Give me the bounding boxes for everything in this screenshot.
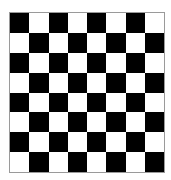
board-square-r3-c1[interactable] xyxy=(29,73,48,93)
board-square-r2-c3[interactable] xyxy=(68,53,87,73)
board-square-r6-c2[interactable] xyxy=(49,132,68,152)
checkerboard xyxy=(10,13,164,172)
board-square-r4-c0[interactable] xyxy=(10,93,29,113)
board-square-r5-c6[interactable] xyxy=(126,112,145,132)
board-square-r7-c7[interactable] xyxy=(145,152,164,172)
board-square-r0-c0[interactable] xyxy=(10,13,29,33)
board-square-r1-c3[interactable] xyxy=(68,33,87,53)
board-square-r2-c6[interactable] xyxy=(126,53,145,73)
board-square-r3-c3[interactable] xyxy=(68,73,87,93)
board-square-r4-c4[interactable] xyxy=(87,93,106,113)
board-square-r1-c0[interactable] xyxy=(10,33,29,53)
board-square-r0-c4[interactable] xyxy=(87,13,106,33)
board-square-r3-c0[interactable] xyxy=(10,73,29,93)
board-square-r3-c5[interactable] xyxy=(106,73,125,93)
board-square-r5-c5[interactable] xyxy=(106,112,125,132)
board-square-r4-c7[interactable] xyxy=(145,93,164,113)
board-square-r0-c7[interactable] xyxy=(145,13,164,33)
board-square-r2-c2[interactable] xyxy=(49,53,68,73)
board-square-r0-c3[interactable] xyxy=(68,13,87,33)
board-square-r6-c7[interactable] xyxy=(145,132,164,152)
board-square-r5-c2[interactable] xyxy=(49,112,68,132)
board-square-r5-c4[interactable] xyxy=(87,112,106,132)
board-square-r1-c4[interactable] xyxy=(87,33,106,53)
board-square-r6-c6[interactable] xyxy=(126,132,145,152)
board-square-r1-c7[interactable] xyxy=(145,33,164,53)
board-square-r6-c0[interactable] xyxy=(10,132,29,152)
board-square-r1-c6[interactable] xyxy=(126,33,145,53)
board-square-r7-c2[interactable] xyxy=(49,152,68,172)
board-square-r6-c1[interactable] xyxy=(29,132,48,152)
board-square-r2-c7[interactable] xyxy=(145,53,164,73)
board-square-r2-c4[interactable] xyxy=(87,53,106,73)
board-square-r4-c1[interactable] xyxy=(29,93,48,113)
board-square-r3-c7[interactable] xyxy=(145,73,164,93)
board-square-r5-c1[interactable] xyxy=(29,112,48,132)
board-square-r4-c5[interactable] xyxy=(106,93,125,113)
board-square-r5-c7[interactable] xyxy=(145,112,164,132)
board-square-r7-c1[interactable] xyxy=(29,152,48,172)
board-square-r2-c5[interactable] xyxy=(106,53,125,73)
board-square-r4-c3[interactable] xyxy=(68,93,87,113)
board-square-r1-c5[interactable] xyxy=(106,33,125,53)
board-square-r2-c1[interactable] xyxy=(29,53,48,73)
board-square-r4-c6[interactable] xyxy=(126,93,145,113)
board-square-r0-c2[interactable] xyxy=(49,13,68,33)
board-square-r3-c2[interactable] xyxy=(49,73,68,93)
board-square-r0-c5[interactable] xyxy=(106,13,125,33)
board-square-r7-c5[interactable] xyxy=(106,152,125,172)
board-square-r7-c6[interactable] xyxy=(126,152,145,172)
board-square-r5-c3[interactable] xyxy=(68,112,87,132)
board-square-r7-c3[interactable] xyxy=(68,152,87,172)
board-square-r6-c4[interactable] xyxy=(87,132,106,152)
board-square-r7-c0[interactable] xyxy=(10,152,29,172)
board-square-r3-c4[interactable] xyxy=(87,73,106,93)
board-square-r0-c6[interactable] xyxy=(126,13,145,33)
board-square-r4-c2[interactable] xyxy=(49,93,68,113)
board-square-r6-c5[interactable] xyxy=(106,132,125,152)
board-square-r6-c3[interactable] xyxy=(68,132,87,152)
board-square-r1-c2[interactable] xyxy=(49,33,68,53)
board-square-r7-c4[interactable] xyxy=(87,152,106,172)
board-square-r1-c1[interactable] xyxy=(29,33,48,53)
board-square-r2-c0[interactable] xyxy=(10,53,29,73)
board-square-r0-c1[interactable] xyxy=(29,13,48,33)
board-square-r3-c6[interactable] xyxy=(126,73,145,93)
board-square-r5-c0[interactable] xyxy=(10,112,29,132)
